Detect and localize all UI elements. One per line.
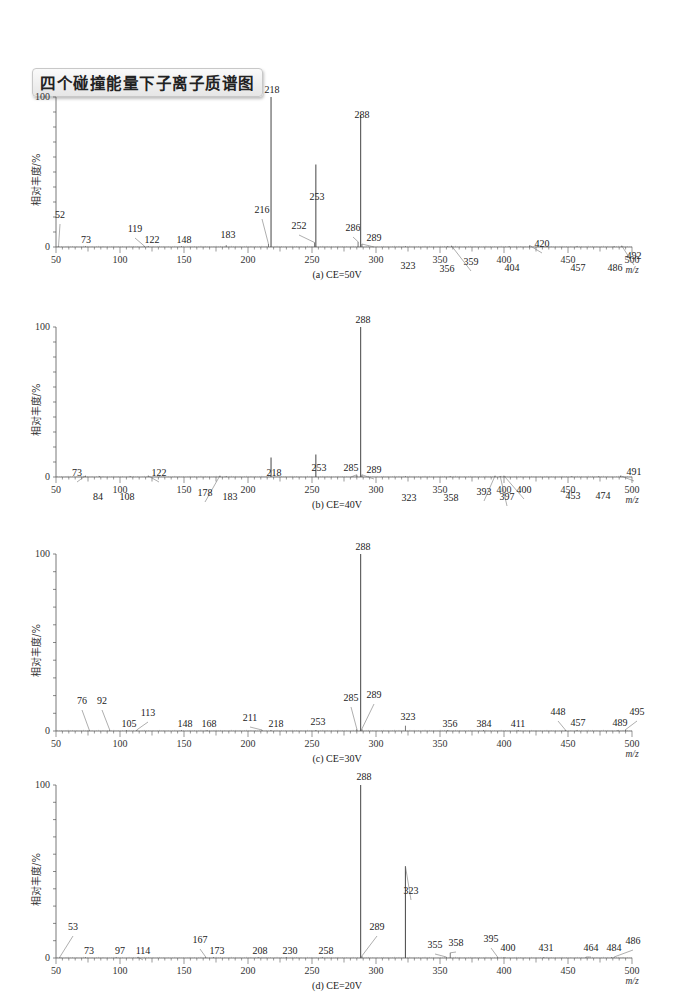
label-leader: [353, 237, 358, 242]
peak-label: 286: [346, 222, 361, 233]
peak-label: 84: [93, 491, 103, 502]
label-leader: [491, 948, 498, 957]
peak-label: 289: [367, 689, 382, 700]
peak-label: 288: [356, 314, 371, 325]
peak-label: 285: [344, 462, 359, 473]
peak-label: 323: [404, 885, 419, 896]
peak-label: 105: [122, 718, 137, 729]
peak-label: 97: [115, 945, 125, 956]
x-tick-300: 300: [369, 738, 384, 749]
peak-label: 92: [97, 695, 107, 706]
x-tick-50: 50: [51, 965, 61, 976]
peak-label: 253: [312, 462, 327, 473]
peak-label: 395: [484, 933, 499, 944]
label-leader: [362, 244, 374, 247]
peak-label: 53: [68, 921, 78, 932]
peak-label: 411: [511, 718, 526, 729]
peak-label: 216: [255, 204, 270, 215]
y-axis-label: 相对丰度/%: [30, 624, 42, 677]
x-tick-350: 350: [433, 965, 448, 976]
peak-label: 356: [440, 263, 455, 274]
x-tick-150: 150: [177, 738, 192, 749]
peak-label: 323: [401, 711, 416, 722]
peak-label: 323: [402, 492, 417, 503]
peak-label: 384: [477, 718, 492, 729]
peak-label: 178: [198, 487, 213, 498]
y-axis-label: 相对丰度/%: [30, 853, 42, 906]
peak-label: 289: [367, 464, 382, 475]
x-axis-label: m/z: [625, 495, 639, 505]
x-tick-200: 200: [241, 965, 256, 976]
peak-label: 183: [223, 491, 238, 502]
y-tick-0: 0: [45, 952, 50, 963]
x-axis-label: m/z: [625, 265, 639, 275]
peak-label: 400: [501, 942, 516, 953]
y-tick-100: 100: [35, 91, 50, 102]
peak-label: 113: [141, 707, 156, 718]
peak-label: 453: [566, 490, 581, 501]
y-axis-label: 相对丰度/%: [30, 154, 42, 207]
y-axis-label: 相对丰度/%: [30, 384, 42, 437]
peak-label: 288: [357, 771, 372, 782]
peak-label: 230: [283, 945, 298, 956]
x-tick-100: 100: [113, 738, 128, 749]
peak-label: 358: [449, 937, 464, 948]
peak-label: 289: [370, 921, 385, 932]
x-tick-150: 150: [177, 254, 192, 265]
peak-label: 218: [267, 467, 282, 478]
label-leader: [362, 704, 374, 729]
peak-label: 252: [292, 220, 307, 231]
x-tick-50: 50: [51, 484, 61, 495]
x-tick-150: 150: [177, 484, 192, 495]
x-tick-400: 400: [497, 738, 512, 749]
label-leader: [102, 710, 110, 730]
peak-label: 356: [443, 718, 458, 729]
peak-label: 323: [401, 260, 416, 271]
label-leader: [82, 710, 89, 730]
label-leader: [250, 727, 262, 730]
x-tick-300: 300: [369, 484, 384, 495]
peak-label: 258: [319, 945, 334, 956]
spectrum-panel-d: 1000相对丰度/%50100150200250300350400450500m…: [30, 771, 641, 992]
peak-label: 457: [571, 717, 586, 728]
peak-label: 173: [210, 945, 225, 956]
panel-caption: (c) CE=30V: [312, 753, 362, 765]
x-tick-500: 500: [625, 738, 640, 749]
label-leader: [135, 238, 144, 246]
x-tick-150: 150: [177, 965, 192, 976]
panel-caption: (d) CE=20V: [312, 980, 363, 992]
y-tick-100: 100: [35, 321, 50, 332]
peak-label: 73: [84, 945, 94, 956]
x-tick-300: 300: [369, 254, 384, 265]
x-axis-label: m/z: [625, 976, 639, 986]
peak-label: 492: [627, 250, 642, 261]
peak-label: 431: [539, 942, 554, 953]
y-tick-100: 100: [35, 779, 50, 790]
peak-label: 474: [596, 490, 611, 501]
peak-label: 168: [202, 718, 217, 729]
peak-label: 397: [500, 491, 515, 502]
x-tick-250: 250: [305, 738, 320, 749]
peak-label: 484: [607, 942, 622, 953]
peak-label: 52: [55, 209, 65, 220]
spectrum-panel-b: 1000相对丰度/%50100150200250300350400450500m…: [30, 314, 642, 511]
x-tick-250: 250: [305, 254, 320, 265]
x-tick-400: 400: [497, 965, 512, 976]
x-tick-100: 100: [113, 254, 128, 265]
panel-caption: (b) CE=40V: [312, 499, 363, 511]
peak-label: 285: [344, 692, 359, 703]
peak-label: 288: [355, 109, 370, 120]
x-tick-500: 500: [625, 484, 640, 495]
peak-label: 73: [72, 467, 82, 478]
peak-label: 495: [630, 706, 645, 717]
peak-label: 489: [613, 717, 628, 728]
spectrum-panel-c: 1000相对丰度/%50100150200250300350400450500m…: [30, 541, 645, 765]
peak-label: 253: [310, 191, 325, 202]
x-tick-100: 100: [113, 965, 128, 976]
y-tick-100: 100: [35, 548, 50, 559]
peak-label: 253: [311, 716, 326, 727]
peak-label: 400: [517, 484, 532, 495]
peak-label: 148: [177, 234, 192, 245]
peak-label: 76: [77, 695, 87, 706]
label-leader: [362, 936, 377, 956]
